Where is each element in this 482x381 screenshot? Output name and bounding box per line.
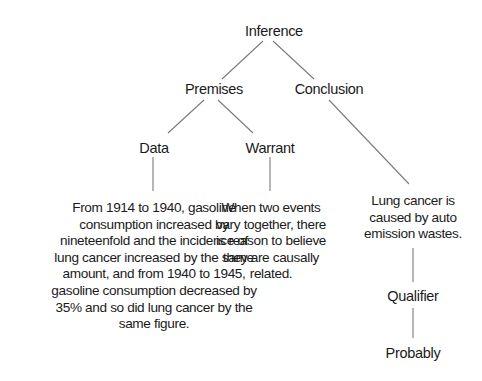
warrant-statement: When two events vary together, there is …	[216, 200, 326, 283]
node-data: Data	[139, 141, 168, 156]
warrant-line: When two events	[216, 200, 326, 217]
node-qualifier: Qualifier	[387, 289, 438, 304]
node-warrant: Warrant	[246, 141, 295, 156]
edge-premises-warrant	[218, 100, 253, 133]
data-line: same figure.	[51, 316, 256, 333]
warrant-line: is reason to believe	[216, 233, 326, 250]
node-probably: Probably	[386, 346, 441, 361]
data-line: 35% and so did lung cancer by the	[51, 300, 256, 317]
conclusion-line: caused by auto	[364, 210, 462, 227]
warrant-line: related.	[216, 266, 326, 283]
conclusion-line: Lung cancer is	[364, 193, 462, 210]
data-line: gasoline consumption decreased by	[51, 283, 256, 300]
warrant-line: they are causally	[216, 250, 326, 267]
edge-inference-premises	[222, 41, 263, 79]
node-conclusion: Conclusion	[295, 82, 364, 97]
node-premises: Premises	[185, 82, 243, 97]
conclusion-line: emission wastes.	[364, 226, 462, 243]
conclusion-statement: Lung cancer is caused by auto emission w…	[364, 193, 462, 243]
warrant-line: vary together, there	[216, 217, 326, 234]
edge-premises-data	[168, 100, 204, 133]
node-inference: Inference	[245, 24, 303, 39]
edge-conclusion-statement	[329, 100, 409, 184]
edge-inference-conclusion	[273, 41, 314, 79]
